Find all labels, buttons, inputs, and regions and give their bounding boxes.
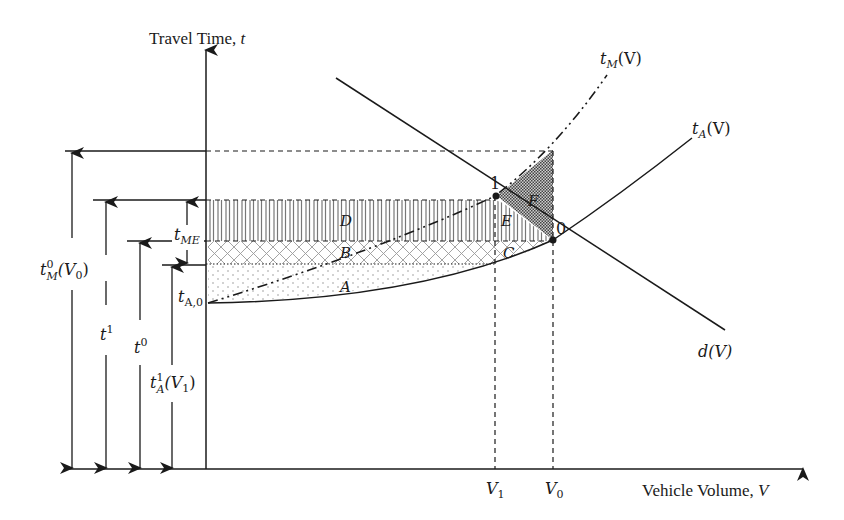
tA0-label: tA,0	[178, 287, 203, 309]
point-1-label: 1	[490, 174, 500, 193]
region-b-fill	[208, 241, 495, 264]
left-labels: t0M(V0) t1 t0 t1A(V1) tME tA,0	[38, 225, 204, 398]
region-b-label: B	[339, 244, 351, 262]
y-axis-title: Travel Time, t	[149, 29, 246, 48]
region-f-label: F	[527, 192, 539, 210]
tM-label: tM(V)	[600, 49, 642, 71]
v1-label: V1	[486, 479, 505, 501]
welfare-diagram: 1 0 Travel Time, t Vehicle Volume, V tM(…	[0, 0, 844, 520]
demand-label: d(V)	[698, 342, 732, 361]
region-d-label: D	[339, 212, 352, 230]
v0-label: V0	[545, 479, 564, 501]
region-a-label: A	[338, 278, 351, 296]
region-c-label: C	[503, 244, 515, 262]
point-0-label: 0	[556, 219, 566, 238]
region-a-fill	[208, 264, 495, 303]
region-e-label: E	[500, 212, 512, 230]
x-axis-title: Vehicle Volume, V	[642, 481, 771, 500]
point-1	[493, 193, 500, 200]
tA-label: tA(V)	[692, 119, 730, 141]
